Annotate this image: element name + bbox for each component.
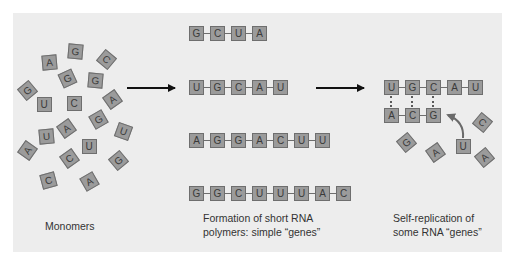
curved-arrow-icon — [448, 115, 463, 138]
replication-caption-line1: Self-replication of — [393, 211, 482, 225]
polymers-caption-line2: polymers: simple “genes” — [203, 225, 320, 239]
monomers-caption: Monomers — [45, 219, 95, 233]
replication-caption: Self-replication of some RNA “genes” — [393, 211, 482, 239]
replication-caption-line2: some RNA “genes” — [393, 225, 482, 239]
polymers-caption: Formation of short RNA polymers: simple … — [203, 211, 320, 239]
polymers-caption-line1: Formation of short RNA — [203, 211, 320, 225]
